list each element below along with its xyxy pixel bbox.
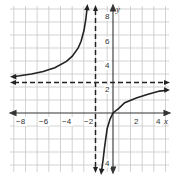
tick-x-m8: −8	[16, 117, 26, 126]
tick-x-4: 4	[156, 117, 161, 126]
axes	[10, 5, 170, 173]
tick-y-2: 2	[105, 85, 110, 94]
tick-y-6: 6	[105, 37, 110, 46]
tick-x-m4: −4	[62, 117, 72, 126]
left-branch	[14, 9, 87, 77]
graph: −8 −6 −4 −2 2 4 x 8 6 4 2 4 y	[0, 0, 174, 175]
tick-x-m2: −2	[84, 117, 94, 126]
tick-y-m4: 4	[105, 159, 110, 168]
x-axis-label: x	[163, 116, 168, 126]
y-axis-label: y	[115, 4, 120, 14]
tick-x-2: 2	[134, 117, 139, 126]
tick-y-8: 8	[105, 12, 110, 21]
tick-x-m6: −6	[39, 117, 49, 126]
right-branch	[102, 90, 168, 171]
curve-arrows	[10, 4, 170, 175]
asymptote-arrows	[10, 5, 170, 173]
grid	[10, 6, 169, 172]
x-tick-labels: −8 −6 −4 −2 2 4 x	[15, 116, 168, 126]
y-tick-labels: 8 6 4 2 4 y	[104, 4, 120, 168]
tick-y-4: 4	[105, 61, 110, 70]
